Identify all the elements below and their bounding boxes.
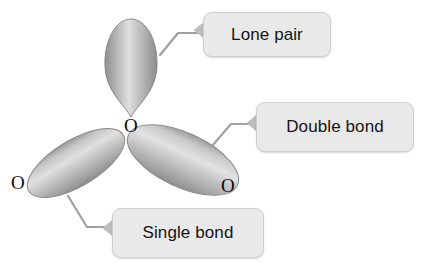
- callout-lone-pair-label: Lone pair: [231, 25, 303, 45]
- callout-lone-pair[interactable]: Lone pair: [203, 12, 331, 57]
- single-bond-lobe: [17, 115, 135, 211]
- center-oxygen-label: O: [124, 116, 138, 135]
- double-bond-leader-line: [212, 124, 250, 146]
- lone-pair-leader-line: [160, 33, 197, 55]
- callout-single-bond-label: Single bond: [143, 223, 234, 243]
- single-bond-leader-line: [68, 196, 106, 227]
- callout-double-bond[interactable]: Double bond: [256, 102, 414, 152]
- callout-double-bond-label: Double bond: [286, 117, 384, 137]
- right-terminal-oxygen-label: O: [221, 176, 235, 195]
- left-terminal-oxygen-label: O: [11, 173, 25, 192]
- orbital-diagram: O O O Lone pair Double bond Single bond: [0, 0, 427, 275]
- callout-single-bond[interactable]: Single bond: [112, 208, 264, 258]
- lone-pair-lobe: [105, 19, 157, 117]
